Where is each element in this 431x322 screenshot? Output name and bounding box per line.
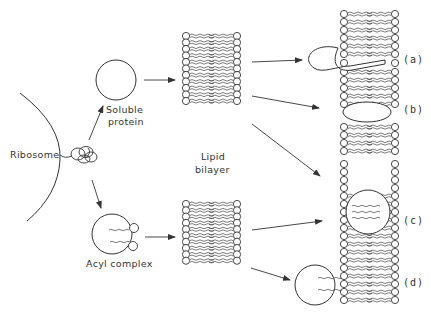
lipid-bilayer-label-1: Lipid [201,151,225,163]
acyl-complex-icon [92,214,139,254]
protein-membrane-insertion-diagram: Ribosome Soluble protein Acyl complex Li… [0,0,431,322]
lipid-bilayer-top [182,32,240,104]
lipid-bilayer-label-2: bilayer [195,164,230,176]
soluble-protein-label-1: Soluble [106,104,143,116]
soluble-protein-icon [96,60,136,100]
anchored-protein-a [309,47,385,71]
outcome-tag-c: (c) [403,215,424,226]
ribosome-label: Ribosome [10,149,59,161]
bilayer-a [340,10,398,107]
soluble-protein-label-2: protein [108,116,144,128]
lipid-bilayer-bottom [182,200,240,264]
nascent-polypeptide-icon [60,147,97,164]
outcome-tag-a: (a) [403,54,424,65]
acyl-complex-label: Acyl complex [86,258,153,270]
outcome-tag-b: (b) [403,104,424,115]
outcome-tag-d: (d) [403,277,424,288]
spanning-protein-b [343,102,391,122]
anchored-acyl-protein-d [295,265,335,305]
